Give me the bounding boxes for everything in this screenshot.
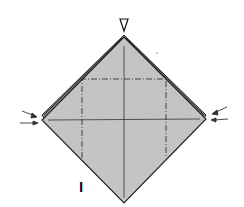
valley-arrow-triangle-icon bbox=[120, 19, 128, 31]
right-push-arrows-icon bbox=[211, 107, 228, 122]
paper-speck bbox=[156, 52, 158, 54]
left-push-arrows-icon bbox=[20, 111, 38, 125]
step-label: I bbox=[79, 178, 83, 195]
origami-diagram bbox=[0, 0, 244, 207]
